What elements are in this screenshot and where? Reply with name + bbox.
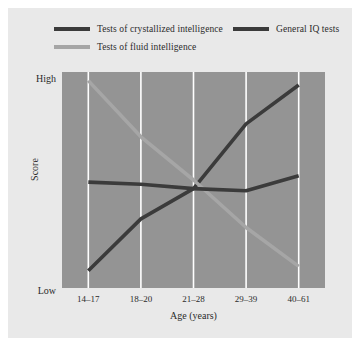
legend-entry-crystallized: Tests of crystallized intelligence <box>54 24 223 34</box>
x-axis-tick-label: 18–20 <box>130 294 153 304</box>
legend-swatch-fluid-line-icon <box>54 45 90 49</box>
legend-label-general-iq: General IQ tests <box>276 24 339 34</box>
x-axis-ticks: 14–1718–2021–2829–3940–61 <box>62 294 325 310</box>
x-axis-tick-label: 21–28 <box>182 294 205 304</box>
chart-legend: Tests of crystallized intelligence Gener… <box>8 24 352 68</box>
legend-swatch-crystallized-line-icon <box>54 27 90 31</box>
legend-label-crystallized: Tests of crystallized intelligence <box>97 24 223 34</box>
legend-label-fluid: Tests of fluid intelligence <box>97 42 196 52</box>
legend-row-top: Tests of crystallized intelligence Gener… <box>54 24 349 34</box>
y-axis-low-label: Low <box>38 285 56 296</box>
legend-entry-general-iq: General IQ tests <box>233 24 339 34</box>
y-axis-title: Score <box>29 130 40 210</box>
y-axis-low-label-wrap: Low <box>8 280 56 298</box>
y-axis-high-label: High <box>36 73 56 84</box>
legend-row-bottom: Tests of fluid intelligence <box>54 42 206 52</box>
y-axis-high-label-wrap: High <box>8 68 56 86</box>
chart-svg <box>62 72 325 288</box>
figure-panel: Tests of crystallized intelligence Gener… <box>8 8 352 338</box>
legend-swatch-general-iq-line-icon <box>233 27 269 31</box>
x-axis-tick-label: 40–61 <box>287 294 310 304</box>
plot-wrapper <box>62 72 325 288</box>
x-axis-title: Age (years) <box>62 310 325 321</box>
x-axis-tick-label: 29–39 <box>235 294 258 304</box>
x-axis-tick-label: 14–17 <box>77 294 100 304</box>
legend-entry-fluid: Tests of fluid intelligence <box>54 42 196 52</box>
